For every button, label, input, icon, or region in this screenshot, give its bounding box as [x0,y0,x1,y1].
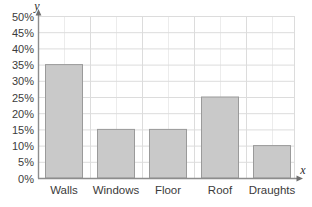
y-tick-label: 20% [12,108,34,120]
bar-chart: 50% 45% 40% 35% 30% 25% 20% 15% 10% 5% 0… [0,0,312,207]
y-tick-label: 35% [12,59,34,71]
y-tick-label: 5% [18,156,34,168]
x-tick-label-floor: Floor [155,184,181,196]
bar-draughts [254,146,291,178]
x-tick-label-windows: Windows [93,184,140,196]
bar-walls [46,65,83,178]
bar-floor [150,129,187,178]
chart-canvas: 50% 45% 40% 35% 30% 25% 20% 15% 10% 5% 0… [0,0,312,207]
y-tick-label: 50% [12,11,34,23]
x-tick-label-walls: Walls [50,184,78,196]
bar-windows [98,129,135,178]
y-tick-label: 25% [12,92,34,104]
x-axis-label: x [299,163,306,177]
y-axis-label: y [33,0,40,13]
y-tick-label: 15% [12,124,34,136]
x-tick-label-draughts: Draughts [249,184,296,196]
y-tick-label: 45% [12,27,34,39]
x-tick-label-roof: Roof [208,184,233,196]
y-tick-label: 30% [12,75,34,87]
bar-roof [202,97,239,178]
y-tick-label: 10% [12,140,34,152]
y-tick-labels: 50% 45% 40% 35% 30% 25% 20% 15% 10% 5% 0… [12,11,34,185]
x-category-labels: Walls Windows Floor Roof Draughts [50,184,295,196]
y-tick-label: 0% [18,173,34,185]
y-axis-line [36,9,42,179]
y-tick-label: 40% [12,43,34,55]
